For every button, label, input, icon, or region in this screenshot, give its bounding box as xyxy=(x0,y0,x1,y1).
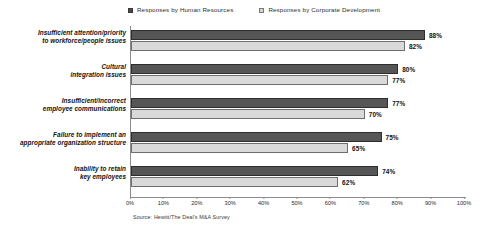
bar-group: 74%62% xyxy=(131,166,465,200)
x-axis-tick: 20% xyxy=(191,197,202,206)
bar-segment[interactable] xyxy=(131,64,398,74)
x-axis-tick-mark xyxy=(196,197,197,199)
x-axis-tick-mark xyxy=(363,197,364,199)
bar-value-label: 75% xyxy=(386,134,399,141)
bar-segment[interactable] xyxy=(131,132,382,142)
x-axis-tick-mark xyxy=(464,197,465,199)
bar-value-label: 82% xyxy=(409,43,422,50)
category-label: Culturalintegration issues xyxy=(0,63,126,80)
bar-row: 82% xyxy=(131,41,465,51)
source-note: Source: Hewitt/The Deal's M&A Survey xyxy=(133,214,230,220)
x-axis-tick: 30% xyxy=(225,197,236,206)
x-axis-tick-label: 70% xyxy=(358,200,369,206)
x-axis-tick-label: 20% xyxy=(191,200,202,206)
x-axis-tick: 0% xyxy=(126,197,134,206)
x-axis-tick-label: 90% xyxy=(425,200,436,206)
bar-segment[interactable] xyxy=(131,75,388,85)
legend-item-human-resources: Responses by Human Resources xyxy=(128,7,233,13)
category-label-line: Cultural xyxy=(0,63,126,71)
bar-segment[interactable] xyxy=(131,30,425,40)
x-axis-tick-mark xyxy=(330,197,331,199)
legend-label-human-resources: Responses by Human Resources xyxy=(137,7,233,13)
x-axis-tick: 10% xyxy=(158,197,169,206)
x-axis-tick-mark xyxy=(263,197,264,199)
category-label-line: integration issues xyxy=(0,71,126,79)
category-label-line: to workforce/people issues xyxy=(0,37,126,45)
category-label-line: Inability to retain xyxy=(0,165,126,173)
x-axis-tick-mark xyxy=(296,197,297,199)
x-axis-tick: 60% xyxy=(325,197,336,206)
bar-value-label: 77% xyxy=(392,100,405,107)
x-axis-tick-mark xyxy=(430,197,431,199)
legend-swatch-icon-corporate-development xyxy=(259,8,264,13)
category-label: Insufficient/incorrectemployee communica… xyxy=(0,97,126,114)
x-axis-tick-label: 10% xyxy=(158,200,169,206)
bar-group: 80%77% xyxy=(131,64,465,98)
bar-row: 75% xyxy=(131,132,465,142)
x-axis-tick: 90% xyxy=(425,197,436,206)
bar-row: 62% xyxy=(131,177,465,187)
category-label: Insufficient attention/priorityto workfo… xyxy=(0,29,126,46)
bar-chart: Responses by Human Resources Responses b… xyxy=(0,0,491,236)
bar-group: 88%82% xyxy=(131,30,465,64)
x-axis-ticks: 0%10%20%30%40%50%60%70%80%90%100% xyxy=(130,197,466,211)
x-axis-tick: 50% xyxy=(291,197,302,206)
legend-swatch-icon-human-resources xyxy=(128,8,133,13)
x-axis-tick-mark xyxy=(230,197,231,199)
category-label: Failure to implement anappropriate organ… xyxy=(0,131,126,148)
bar-segment[interactable] xyxy=(131,41,405,51)
x-axis-tick-mark xyxy=(163,197,164,199)
bar-segment[interactable] xyxy=(131,143,348,153)
bar-group: 75%65% xyxy=(131,132,465,166)
bar-value-label: 88% xyxy=(429,32,442,39)
x-axis-tick-label: 0% xyxy=(126,200,134,206)
bar-segment[interactable] xyxy=(131,98,388,108)
chart-legend: Responses by Human Resources Responses b… xyxy=(128,7,380,13)
bar-row: 70% xyxy=(131,109,465,119)
x-axis-tick: 80% xyxy=(392,197,403,206)
bar-value-label: 62% xyxy=(342,179,355,186)
legend-item-corporate-development: Responses by Corporate Development xyxy=(259,7,380,13)
bar-segment[interactable] xyxy=(131,109,365,119)
x-axis-tick-mark xyxy=(130,197,131,199)
category-label-line: Insufficient attention/priority xyxy=(0,29,126,37)
x-axis-tick-label: 100% xyxy=(457,200,471,206)
bar-row: 77% xyxy=(131,75,465,85)
x-axis-tick-label: 80% xyxy=(392,200,403,206)
category-axis-labels: Insufficient attention/priorityto workfo… xyxy=(0,26,126,196)
bar-row: 74% xyxy=(131,166,465,176)
x-axis-tick: 100% xyxy=(457,197,471,206)
category-label-line: Insufficient/incorrect xyxy=(0,97,126,105)
bar-value-label: 70% xyxy=(369,111,382,118)
bar-row: 77% xyxy=(131,98,465,108)
category-label: Inability to retainkey employees xyxy=(0,165,126,182)
bar-segment[interactable] xyxy=(131,177,338,187)
x-axis-tick-mark xyxy=(397,197,398,199)
bar-groups: 88%82%80%77%77%70%75%65%74%62% xyxy=(131,26,465,196)
category-label-line: appropriate organization structure xyxy=(0,139,126,147)
bar-group: 77%70% xyxy=(131,98,465,132)
bar-row: 65% xyxy=(131,143,465,153)
bar-row: 88% xyxy=(131,30,465,40)
x-axis-tick-label: 50% xyxy=(291,200,302,206)
bar-value-label: 77% xyxy=(392,77,405,84)
category-label-line: employee communications xyxy=(0,105,126,113)
x-axis-tick-label: 60% xyxy=(325,200,336,206)
bar-value-label: 74% xyxy=(382,168,395,175)
bar-value-label: 80% xyxy=(402,66,415,73)
category-label-line: Failure to implement an xyxy=(0,131,126,139)
x-axis-tick-label: 40% xyxy=(258,200,269,206)
legend-label-corporate-development: Responses by Corporate Development xyxy=(268,7,380,13)
bar-row: 80% xyxy=(131,64,465,74)
x-axis-tick: 40% xyxy=(258,197,269,206)
category-label-line: key employees xyxy=(0,173,126,181)
bar-value-label: 65% xyxy=(352,145,365,152)
x-axis-tick-label: 30% xyxy=(225,200,236,206)
x-axis-tick: 70% xyxy=(358,197,369,206)
bar-segment[interactable] xyxy=(131,166,378,176)
